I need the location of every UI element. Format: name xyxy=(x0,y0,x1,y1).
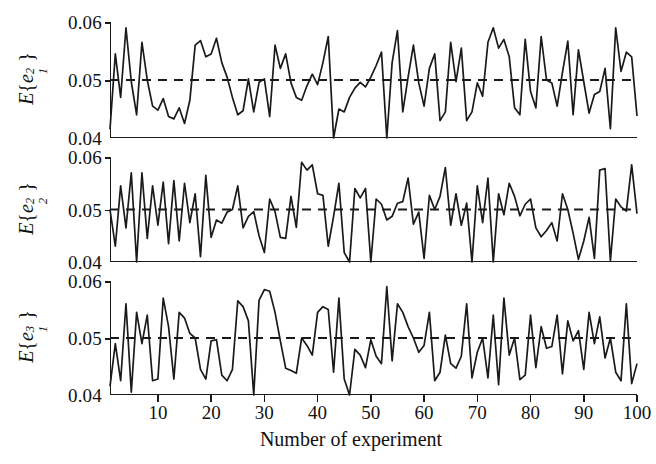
y-axis-title-close: } xyxy=(15,52,37,62)
y-axis-title-var: e xyxy=(15,204,37,213)
y-axis-title-open: { xyxy=(15,341,37,351)
data-series xyxy=(110,162,637,262)
y-axis-title-fn: E xyxy=(15,93,37,105)
y-axis-title-panel-2: E{e31} xyxy=(15,277,38,397)
ytick-label: 0.05 xyxy=(68,201,102,220)
y-axis-title-sub: 1 xyxy=(35,68,50,74)
ytick-label: 0.04 xyxy=(68,129,102,148)
panel-e2-squared xyxy=(110,157,637,262)
ytick-label: 0.04 xyxy=(68,253,102,272)
x-axis-tick xyxy=(423,395,425,402)
plot-svg xyxy=(110,281,637,395)
ytick-label: 0.06 xyxy=(68,272,102,291)
chart-figure: 0.06 0.05 0.04 0.06 0.05 0.04 0.06 0.05 … xyxy=(0,0,656,464)
x-axis-tick-label: 80 xyxy=(521,402,540,424)
y-axis-title-fn: E xyxy=(15,222,37,234)
y-axis-title-var: e xyxy=(15,74,37,83)
y-axis-title-var: e xyxy=(15,332,37,341)
x-axis-tick-label: 40 xyxy=(308,402,327,424)
ytick-label: 0.06 xyxy=(68,13,102,32)
x-axis-tick-label: 70 xyxy=(468,402,487,424)
x-axis-tick-labels: 102030405060708090100 xyxy=(110,402,637,426)
x-axis-tick-label: 10 xyxy=(148,402,167,424)
x-axis-tick xyxy=(583,395,585,402)
x-axis-tick-label: 90 xyxy=(574,402,593,424)
data-series xyxy=(110,287,637,395)
y-axis-title-panel-0: E{e21} xyxy=(15,19,38,139)
y-axis-title-close: } xyxy=(15,310,37,320)
x-axis-tick xyxy=(157,395,159,402)
x-axis-tick-label: 50 xyxy=(361,402,380,424)
plot-svg xyxy=(110,22,637,138)
ytick-label: 0.04 xyxy=(68,386,102,405)
y-axis-title-sub: 2 xyxy=(35,197,50,203)
y-axis-title-fn: E xyxy=(15,351,37,363)
y-axis-title-open: { xyxy=(15,213,37,223)
x-axis-tick xyxy=(477,395,479,402)
panel-e1-squared xyxy=(110,22,637,138)
x-axis-tick xyxy=(636,395,638,402)
x-axis-tick xyxy=(370,395,372,402)
x-axis-tick-label: 20 xyxy=(202,402,221,424)
panel-e1-cubed xyxy=(110,281,637,395)
plot-svg xyxy=(110,157,637,262)
x-axis-title: Number of experiment xyxy=(0,428,656,451)
x-axis-tick-label: 100 xyxy=(623,402,652,424)
y-axis-title-open: { xyxy=(15,83,37,93)
y-axis-title-close: } xyxy=(15,182,37,192)
x-axis-tick xyxy=(317,395,319,402)
x-axis-title-text: Number of experiment xyxy=(260,428,442,451)
data-series xyxy=(110,28,637,138)
ytick-label: 0.05 xyxy=(68,71,102,90)
ytick-label: 0.06 xyxy=(68,148,102,167)
x-axis-tick xyxy=(210,395,212,402)
y-axis-title-panel-1: E{e22} xyxy=(15,148,38,268)
x-axis-tick xyxy=(264,395,266,402)
x-axis-tick-label: 60 xyxy=(415,402,434,424)
ytick-label: 0.05 xyxy=(68,329,102,348)
x-axis-tick xyxy=(530,395,532,402)
x-axis-tick-label: 30 xyxy=(255,402,274,424)
y-axis-title-sub: 1 xyxy=(35,326,50,332)
